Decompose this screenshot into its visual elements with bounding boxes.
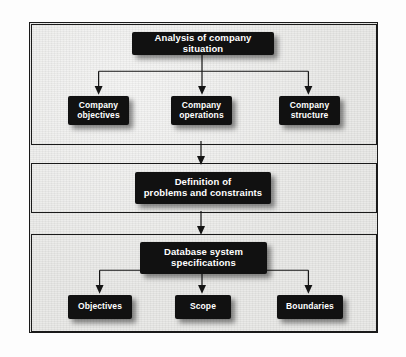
arrowhead-center xyxy=(198,86,206,95)
node-definition-line-2: problems and constraints xyxy=(140,188,267,199)
node-dbspec-label: Database system specifications xyxy=(156,247,251,269)
node-company-operations-label: Company operations xyxy=(171,101,231,121)
section-analysis: Analysis of company situation Company ob… xyxy=(31,24,377,145)
node-company-operations-line-2: operations xyxy=(175,111,227,121)
node-company-structure-line-2: structure xyxy=(286,111,333,121)
node-company-objectives-label: Company objectives xyxy=(69,101,128,121)
node-database-system-specifications[interactable]: Database system specifications xyxy=(140,242,267,274)
node-boundaries[interactable]: Boundaries xyxy=(277,295,343,319)
node-definition-label: Definition of problems and constraints xyxy=(136,177,271,199)
arrowhead-left-bottom xyxy=(96,285,104,294)
arrowhead-right-bottom xyxy=(304,285,312,294)
node-definition-of-problems-and-constraints[interactable]: Definition of problems and constraints xyxy=(135,172,271,204)
node-scope[interactable]: Scope xyxy=(175,295,231,319)
arrowhead-left xyxy=(95,86,103,95)
section-definition: Definition of problems and constraints xyxy=(31,163,377,213)
arrowhead-center-bottom xyxy=(198,285,206,294)
node-company-structure[interactable]: Company structure xyxy=(279,96,340,125)
node-objectives-label: Objectives xyxy=(74,302,126,312)
node-company-operations[interactable]: Company operations xyxy=(171,96,232,125)
diagram-panel: Analysis of company situation Company ob… xyxy=(29,22,378,333)
node-objectives[interactable]: Objectives xyxy=(68,295,132,319)
node-boundaries-label: Boundaries xyxy=(282,302,338,312)
node-company-structure-label: Company structure xyxy=(282,101,337,121)
node-company-objectives-line-2: objectives xyxy=(73,111,124,121)
figure-canvas: Analysis of company situation Company ob… xyxy=(0,0,406,357)
arrowhead-right xyxy=(304,86,312,95)
node-analysis-of-company-situation[interactable]: Analysis of company situation xyxy=(132,32,274,55)
node-dbspec-line-2: specifications xyxy=(160,258,247,269)
node-company-objectives[interactable]: Company objectives xyxy=(68,96,129,125)
node-analysis-label: Analysis of company situation xyxy=(132,33,274,55)
node-scope-label: Scope xyxy=(186,302,220,312)
section-database-specifications: Database system specifications Objective… xyxy=(31,234,377,332)
